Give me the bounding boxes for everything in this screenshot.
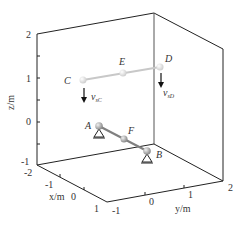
- point-F-ball: [121, 136, 128, 143]
- 3d-plot: 2 1 0 -1 z/m -2 -1 0 1 x/m -1 0 1 2 y/m …: [0, 0, 241, 225]
- y-tick-0: 0: [149, 196, 154, 207]
- x-tick-neg2: -2: [24, 167, 32, 178]
- point-A-ball: [95, 122, 103, 130]
- arrow-vD: [158, 73, 164, 88]
- point-B-ball: [143, 147, 151, 155]
- z-tick-neg1: -1: [21, 156, 29, 167]
- x-tick-1: 1: [94, 203, 99, 214]
- label-D: D: [164, 53, 173, 64]
- y-tick-2: 2: [228, 182, 233, 193]
- y-axis-ticks: [145, 185, 184, 195]
- label-vD: vsD: [163, 87, 175, 99]
- point-C-ball: [80, 77, 87, 84]
- y-tick-1: 1: [188, 189, 193, 200]
- label-vC: vsC: [91, 91, 103, 103]
- point-D-ball: [157, 64, 164, 71]
- x-tick-neg1: -1: [45, 179, 53, 190]
- z-tick-0: 0: [26, 116, 31, 127]
- label-B: B: [156, 149, 162, 160]
- x-tick-0: 0: [71, 191, 76, 202]
- lower-bar-AB: [93, 122, 153, 163]
- z-tick-1: 1: [26, 73, 31, 84]
- z-tick-2: 2: [26, 29, 31, 40]
- label-F: F: [127, 125, 135, 136]
- point-E-ball: [120, 70, 127, 77]
- label-C: C: [64, 75, 71, 86]
- x-axis-label: x/m: [49, 191, 65, 202]
- y-axis-label: y/m: [175, 203, 191, 214]
- label-E: E: [118, 56, 125, 67]
- plot-frame: [37, 13, 223, 202]
- z-axis-label: z/m: [5, 95, 16, 110]
- support-A-icon: [94, 129, 104, 137]
- y-tick-neg1: -1: [112, 205, 120, 216]
- support-B-icon: [142, 154, 152, 162]
- label-A: A: [84, 120, 92, 131]
- arrow-vC: [81, 88, 87, 103]
